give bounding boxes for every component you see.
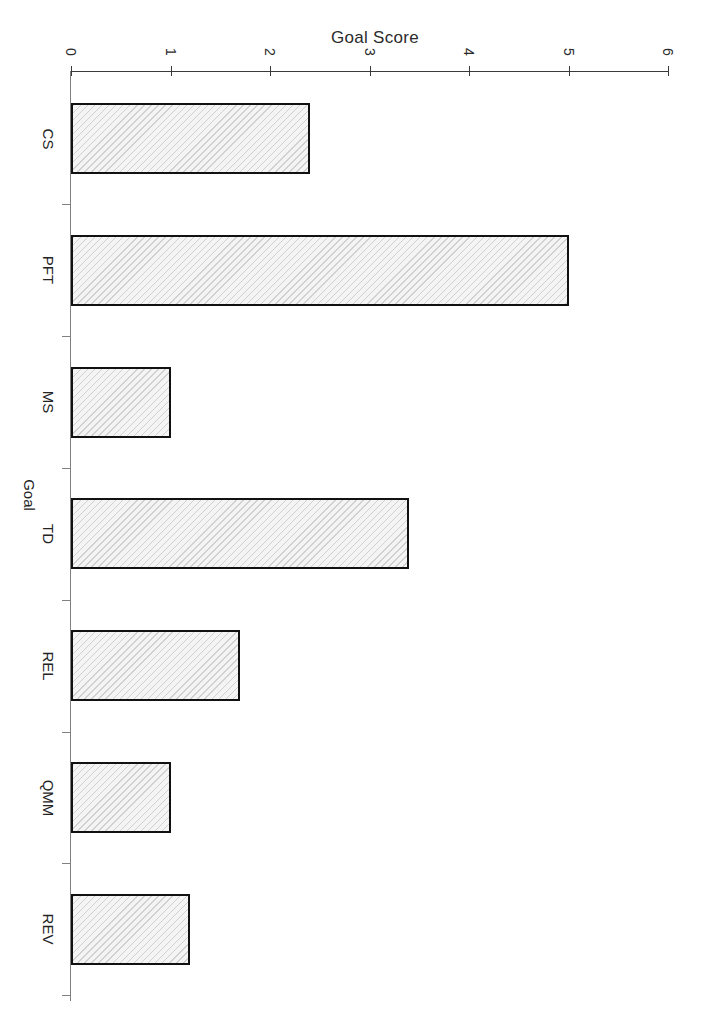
bar xyxy=(71,367,171,438)
axis-tick-label: 5 xyxy=(557,40,581,64)
category-tick xyxy=(62,336,71,337)
bar xyxy=(71,762,171,833)
axis-tick-label: 1 xyxy=(159,40,183,64)
category-label: REV xyxy=(37,886,59,972)
bar xyxy=(71,103,310,174)
category-tick xyxy=(62,600,71,601)
axis-tick xyxy=(469,66,470,76)
axis-tick xyxy=(71,66,72,76)
category-label: TD xyxy=(37,491,59,577)
axis-tick xyxy=(668,66,669,76)
axis-tick-label: 2 xyxy=(258,40,282,64)
bar xyxy=(71,630,240,701)
axis-tick xyxy=(270,66,271,76)
axis-tick-label: 0 xyxy=(59,40,83,64)
category-tick xyxy=(62,995,71,996)
category-label: QMM xyxy=(37,755,59,841)
axis-tick-label: 6 xyxy=(656,40,680,64)
axis-tick-label: 4 xyxy=(457,40,481,64)
category-tick xyxy=(62,732,71,733)
chart-title: Goal Score xyxy=(0,28,714,48)
axis-tick-label: 3 xyxy=(358,40,382,64)
bar xyxy=(71,498,409,569)
bar xyxy=(71,235,569,306)
bar-chart-figure: Goal Score 0123456 CSPFTMSTDRELQMMREV Go… xyxy=(0,0,714,1029)
category-label: CS xyxy=(37,96,59,182)
category-label: PFT xyxy=(37,227,59,313)
axis-tick xyxy=(171,66,172,76)
category-tick xyxy=(62,468,71,469)
bar xyxy=(71,894,190,965)
category-axis-label: Goal xyxy=(18,452,40,538)
category-label: MS xyxy=(37,359,59,445)
category-tick xyxy=(62,204,71,205)
axis-tick xyxy=(370,66,371,76)
category-tick xyxy=(62,863,71,864)
category-label: REL xyxy=(37,623,59,709)
axis-tick xyxy=(569,66,570,76)
